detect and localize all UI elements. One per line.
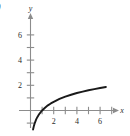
- coordinate-plane: 2 4 6 2 4 6 x y: [0, 0, 130, 136]
- y-axis-label: y: [28, 4, 33, 13]
- x-axis: [19, 108, 119, 113]
- graph-figure: ): [0, 0, 130, 136]
- x-axis-label: x: [119, 106, 124, 115]
- y-tick-label-4: 4: [18, 56, 22, 65]
- y-tick-label-2: 2: [18, 81, 22, 90]
- x-tick-label-4: 4: [75, 117, 79, 126]
- x-tick-label-2: 2: [52, 117, 56, 126]
- data-curve: [33, 87, 106, 130]
- x-tick-label-6: 6: [98, 117, 102, 126]
- y-tick-label-6: 6: [18, 31, 22, 40]
